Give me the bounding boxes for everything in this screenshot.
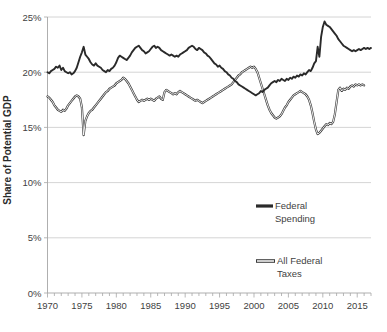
x-tick-label: 2000 bbox=[243, 300, 264, 311]
x-tick-label: 1975 bbox=[71, 300, 92, 311]
y-tick-label: 15% bbox=[22, 122, 42, 133]
series-line-all-federal-taxes bbox=[48, 67, 365, 135]
y-axis-title: Share of Potential GDP bbox=[2, 95, 13, 205]
legend-label-all-federal-taxes-line1: All Federal bbox=[277, 255, 322, 266]
x-tick-label: 1990 bbox=[175, 300, 196, 311]
y-axis-tick-labels: 0%5%10%15%20%25% bbox=[22, 12, 42, 299]
x-tick-label: 2010 bbox=[312, 300, 333, 311]
y-tick-label: 25% bbox=[22, 12, 42, 23]
data-series bbox=[48, 21, 372, 135]
x-tick-label: 2015 bbox=[347, 300, 368, 311]
legend-label-federal-spending-line1: Federal bbox=[275, 200, 307, 211]
chart-container: 0%5%10%15%20%25% 19701975198019851990199… bbox=[0, 0, 387, 332]
axes bbox=[48, 17, 372, 293]
legend-item-all-federal-taxes: All Federal Taxes bbox=[256, 255, 322, 279]
x-tick-label: 2005 bbox=[278, 300, 299, 311]
x-axis-tick-labels: 1970197519801985199019952000200520102015 bbox=[37, 300, 368, 311]
x-tick-label: 1985 bbox=[140, 300, 161, 311]
legend-label-federal-spending-line2: Spending bbox=[275, 213, 315, 224]
x-tick-label: 1970 bbox=[37, 300, 58, 311]
series-line-federal-spending bbox=[48, 21, 372, 95]
x-tick-label: 1980 bbox=[106, 300, 127, 311]
y-tick-label: 0% bbox=[28, 288, 42, 299]
legend-label-all-federal-taxes-line2: Taxes bbox=[277, 268, 302, 279]
legend-item-federal-spending: Federal Spending bbox=[256, 200, 315, 224]
x-tick-label: 1995 bbox=[209, 300, 230, 311]
y-tick-label: 10% bbox=[22, 177, 42, 188]
y-tick-label: 20% bbox=[22, 67, 42, 78]
y-tick-label: 5% bbox=[28, 232, 42, 243]
line-chart: 0%5%10%15%20%25% 19701975198019851990199… bbox=[0, 0, 387, 332]
